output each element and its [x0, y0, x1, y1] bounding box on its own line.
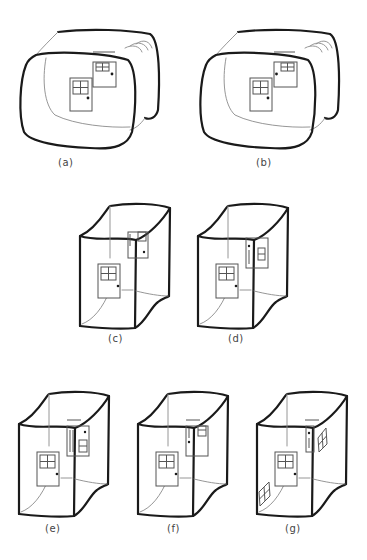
panel-label-f: (f) — [167, 523, 180, 534]
box-room-c-drawing — [78, 198, 178, 333]
panel-label-d: (d) — [228, 333, 244, 344]
box-room-d-drawing — [196, 198, 296, 333]
panel-b: (b) — [180, 0, 360, 180]
panel-g: (g) — [255, 386, 355, 521]
box-room-f-drawing — [136, 386, 236, 521]
panel-f: (f) — [136, 386, 236, 521]
panel-label-a: (a) — [58, 157, 73, 168]
box-room-g-drawing — [255, 386, 355, 521]
panel-label-e: (e) — [45, 523, 60, 534]
panel-label-g: (g) — [285, 523, 301, 534]
panel-e: (e) — [17, 386, 117, 521]
rounded-room-b-drawing — [180, 0, 360, 180]
panel-d: (d) — [196, 198, 296, 333]
panel-label-b: (b) — [256, 157, 272, 168]
panel-label-c: (c) — [108, 333, 123, 344]
panel-c: (c) — [78, 198, 178, 333]
panel-a: (a) — [0, 0, 180, 180]
rounded-room-a-drawing — [0, 0, 180, 180]
box-room-e-drawing — [17, 386, 117, 521]
